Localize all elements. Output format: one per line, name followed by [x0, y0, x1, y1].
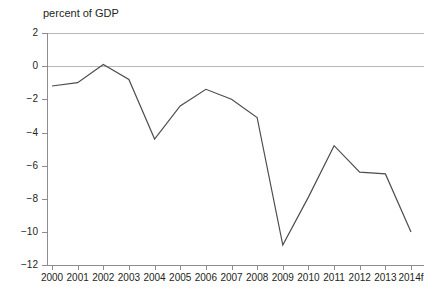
chart-container: percent of GDP 2 0 −2 −4 −6 −8 −10 −12 2… — [0, 0, 437, 291]
series-line — [0, 0, 437, 291]
